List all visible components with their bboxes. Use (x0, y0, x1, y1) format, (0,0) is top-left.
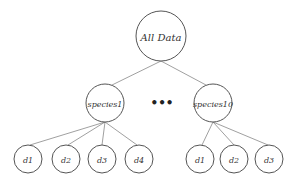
leaf-label: d2 (229, 156, 239, 165)
tree-diagram: All Data species1 ••• species10 d1 d2 d3… (0, 0, 298, 182)
leaf-node: d2 (220, 145, 248, 173)
edge-species1-d1 (30, 122, 105, 145)
leaf-node: d2 (52, 145, 80, 173)
leaf-label: d3 (97, 156, 107, 165)
leaf-label: d1 (23, 156, 33, 165)
leaf-node: d3 (255, 145, 283, 173)
leaf-label: d4 (134, 156, 144, 165)
species10-label: species10 (193, 100, 233, 109)
species10-node: species10 (193, 84, 233, 122)
edge-root-species10 (161, 61, 206, 85)
edge-species10-d3 (213, 122, 268, 145)
leaf-node: d1 (186, 145, 214, 173)
root-node: All Data (136, 11, 186, 61)
leaf-label: d1 (195, 156, 205, 165)
leaf-node: d3 (88, 145, 116, 173)
edge-species10-d1 (202, 122, 213, 145)
root-label: All Data (140, 32, 182, 43)
leaf-label: d2 (61, 156, 71, 165)
edge-species10-d2 (213, 122, 234, 145)
edge-species1-d3 (102, 122, 105, 145)
species1-node: species1 (86, 84, 124, 122)
ellipsis: ••• (150, 96, 173, 110)
edge-species1-d4 (105, 122, 137, 145)
species1-label: species1 (88, 100, 123, 109)
leaf-label: d3 (264, 156, 274, 165)
leaf-node: d1 (14, 145, 42, 173)
edge-root-species1 (112, 61, 161, 85)
edge-species1-d2 (68, 122, 105, 145)
leaf-node: d4 (125, 145, 153, 173)
